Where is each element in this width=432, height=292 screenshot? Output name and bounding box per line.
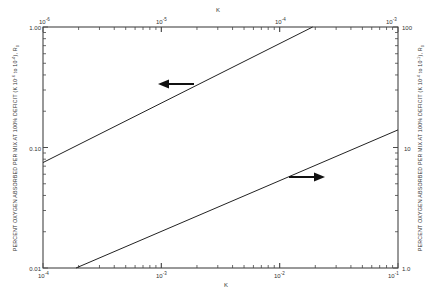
svg-text:0.01: 0.01 xyxy=(29,266,41,272)
right-axis-title: PERCENT OXYGEN ABSORBED PER MIX AT 100% … xyxy=(416,44,425,251)
svg-text:10-5: 10-5 xyxy=(156,17,167,25)
svg-text:100: 100 xyxy=(402,25,413,31)
svg-text:1.00: 1.00 xyxy=(29,25,41,31)
svg-text:10-4: 10-4 xyxy=(38,271,49,279)
chart: K K 10-6 10-5 10-4 10-3 10-4 10-3 10-2 1… xyxy=(0,0,432,292)
series-high-k-line xyxy=(76,130,398,268)
arrow-left-icon xyxy=(158,80,194,89)
series-low-k-line xyxy=(43,27,313,163)
left-axis-title: PERCENT OXYGEN ABSORBED PER MIX AT 100% … xyxy=(11,44,20,251)
axis-ticks xyxy=(43,27,398,268)
svg-text:1.0: 1.0 xyxy=(402,266,411,272)
bottom-axis-title: K xyxy=(224,282,228,288)
top-axis-title: K xyxy=(216,7,220,13)
svg-text:10-3: 10-3 xyxy=(386,17,397,25)
svg-text:10-4: 10-4 xyxy=(275,17,286,25)
svg-text:10-3: 10-3 xyxy=(156,271,167,279)
plot-frame xyxy=(43,27,398,268)
svg-text:10-1: 10-1 xyxy=(388,271,399,279)
svg-text:10-6: 10-6 xyxy=(39,17,50,25)
bottom-tick-labels: 10-4 10-3 10-2 10-1 xyxy=(38,271,399,279)
top-tick-labels: 10-6 10-5 10-4 10-3 xyxy=(39,17,397,25)
svg-text:10-2: 10-2 xyxy=(274,271,285,279)
svg-text:10: 10 xyxy=(404,146,411,152)
left-tick-labels: 1.00 0.10 0.01 xyxy=(29,25,41,272)
right-tick-labels: 100 10 1.0 xyxy=(402,25,413,272)
svg-text:0.10: 0.10 xyxy=(29,146,41,152)
